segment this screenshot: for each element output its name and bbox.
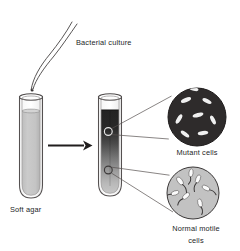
normal-motile-cells-label-line1: Normal motile [172, 224, 220, 233]
bacterial-culture-label: Bacterial culture [76, 38, 132, 47]
mutant-cells-label: Mutant cells [176, 148, 217, 157]
soft-agar-tube [19, 94, 42, 198]
inoculated-tube [98, 94, 121, 196]
figure-root: Mutant cells [0, 0, 240, 251]
needle-tip [31, 90, 34, 92]
soft-agar-fill [22, 111, 40, 195]
soft-agar-label: Soft agar [10, 205, 42, 214]
normal-motile-cells-label-line2: cells [188, 236, 204, 245]
agar-meniscus [22, 109, 40, 113]
soft-agar-motility-diagram: Mutant cells [0, 0, 240, 251]
